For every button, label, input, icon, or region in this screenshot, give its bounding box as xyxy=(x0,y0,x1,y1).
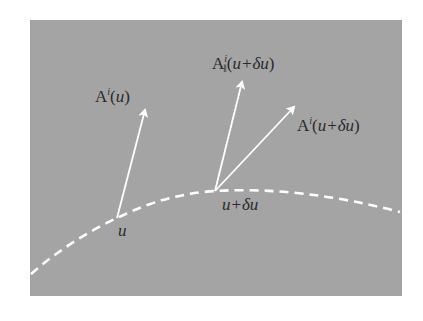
point-u-du-text: u+δu xyxy=(222,195,258,214)
paren-close: ) xyxy=(354,116,360,135)
label-base: A xyxy=(297,116,309,135)
label-A-at-u-du: Ai(u+δu) xyxy=(297,116,360,134)
label-arg: u+δu xyxy=(318,116,354,135)
label-A-parallel-at-u-du: Ai∥(u+δu) xyxy=(212,54,274,73)
label-base: A xyxy=(95,87,107,106)
label-A-at-u: Ai(u) xyxy=(95,87,130,105)
diagram-canvas xyxy=(0,0,423,321)
label-arg: u xyxy=(116,87,125,106)
parallel-transport-diagram: Ai(u) Ai∥(u+δu) Ai(u+δu) u u+δu xyxy=(0,0,423,321)
label-arg: u+δu xyxy=(232,54,268,73)
paren-close: ) xyxy=(269,54,275,73)
paren-close: ) xyxy=(124,87,130,106)
label-point-u-du: u+δu xyxy=(222,196,258,213)
point-u-text: u xyxy=(118,221,127,240)
label-point-u: u xyxy=(118,222,127,239)
